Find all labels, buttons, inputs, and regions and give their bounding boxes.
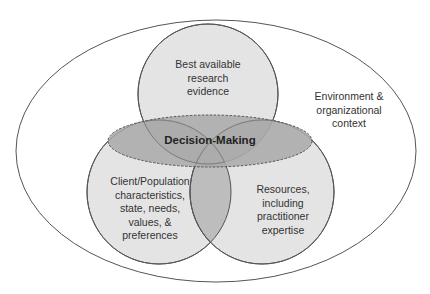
label-line: context xyxy=(299,117,399,131)
label-line: including xyxy=(238,197,328,211)
label-line: organizational xyxy=(299,104,399,118)
resources-label: Resources, including practitioner expert… xyxy=(238,183,328,237)
venn-diagram xyxy=(0,0,430,294)
label-line: Environment & xyxy=(299,90,399,104)
label-line: research xyxy=(158,72,258,86)
label-line: state, needs, xyxy=(100,202,200,216)
label-line: values, & xyxy=(100,216,200,230)
label-line: preferences xyxy=(100,229,200,243)
label-line: Resources, xyxy=(238,183,328,197)
label-line: characteristics, xyxy=(100,189,200,203)
context-label: Environment & organizational context xyxy=(299,90,399,131)
label-line: practitioner xyxy=(238,210,328,224)
label-line: Client/Population xyxy=(100,175,200,189)
evidence-label: Best available research evidence xyxy=(158,58,258,99)
label-line: Best available xyxy=(158,58,258,72)
label-line: expertise xyxy=(238,224,328,238)
decision-making-label: Decision-Making xyxy=(150,134,270,146)
client-label: Client/Population characteristics, state… xyxy=(100,175,200,243)
label-line: evidence xyxy=(158,85,258,99)
